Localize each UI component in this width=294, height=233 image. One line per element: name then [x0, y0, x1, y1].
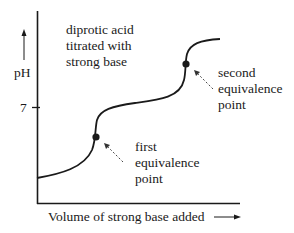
first-equivalence-point-marker [92, 133, 99, 140]
second-label-line-3: point [218, 97, 282, 113]
second-label-line-1: second [218, 65, 282, 81]
titration-diagram [0, 0, 294, 233]
first-pointer-arrow-icon [104, 143, 123, 162]
volume-right-arrow-icon [214, 215, 241, 220]
first-label-line-3: point [135, 171, 199, 187]
title-line-3: strong base [66, 54, 134, 70]
second-equivalence-label: second equivalence point [218, 65, 282, 113]
second-pointer-arrow-icon [194, 70, 213, 89]
first-label-line-2: equivalence [135, 155, 199, 171]
title-line-1: diprotic acid [66, 22, 134, 38]
diagram-title: diprotic acid titrated with strong base [66, 22, 134, 70]
y-axis-label: pH [14, 65, 31, 81]
ph-up-arrow-icon [22, 29, 27, 60]
title-line-2: titrated with [66, 38, 134, 54]
y-tick-label-7: 7 [20, 100, 27, 116]
second-equivalence-point-marker [182, 60, 189, 67]
first-equivalence-label: first equivalence point [135, 139, 199, 187]
x-axis-label: Volume of strong base added [48, 209, 204, 225]
second-label-line-2: equivalence [218, 81, 282, 97]
first-label-line-1: first [135, 139, 199, 155]
